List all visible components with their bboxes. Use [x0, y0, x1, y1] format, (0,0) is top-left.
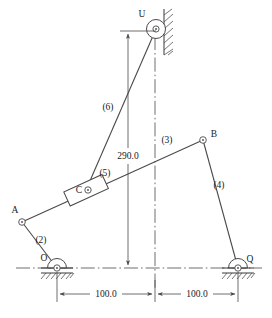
joint-label-o: O: [41, 253, 48, 263]
dimension-label-left-100: 100.0: [95, 289, 117, 299]
joint-label-c: C: [76, 185, 82, 195]
link-label-6: (6): [102, 102, 113, 113]
joint-u: [147, 20, 166, 39]
link-label-3: (3): [161, 135, 172, 146]
mechanism-diagram: U B C A: [0, 0, 272, 318]
dimension-extension-lines: [57, 272, 238, 302]
link-4-body: [203, 140, 238, 268]
link-3-body: [22, 140, 203, 222]
joint-a: [19, 219, 26, 226]
joint-label-u: U: [139, 9, 146, 19]
ground-hatch-o: [41, 273, 74, 279]
joint-label-b: B: [211, 129, 217, 139]
joint-label-a: A: [12, 205, 19, 215]
joint-b: [200, 137, 207, 144]
joint-label-q: Q: [247, 254, 254, 264]
ground-hatch-q: [222, 273, 255, 279]
link-label-2: (2): [35, 235, 46, 246]
link-label-5: (5): [99, 168, 110, 179]
mechanism-svg: U B C A: [0, 0, 272, 318]
dimension-label-290: 290.0: [117, 151, 139, 161]
dimension-label-right-100: 100.0: [186, 289, 208, 299]
link-label-4: (4): [213, 180, 224, 191]
joint-c: [85, 187, 91, 193]
dimension-vertical-290: [120, 31, 156, 265]
